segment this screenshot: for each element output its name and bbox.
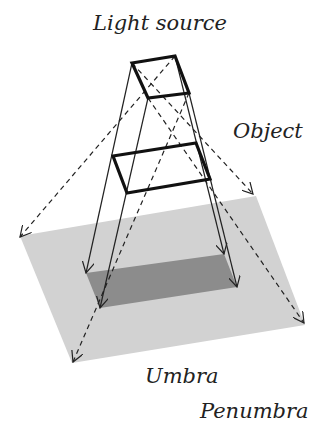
diagram-canvas: Light source Object Umbra Penumbra xyxy=(0,0,330,433)
penumbra-ray-arrow xyxy=(20,56,175,237)
umbra-label: Umbra xyxy=(145,364,219,388)
penumbra-label: Penumbra xyxy=(199,399,309,423)
shadow-diagram: Light source Object Umbra Penumbra xyxy=(0,0,330,433)
object-label: Object xyxy=(233,119,303,143)
light-source-label: Light source xyxy=(92,11,227,35)
